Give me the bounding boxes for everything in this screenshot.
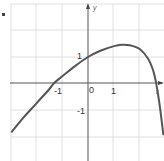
function-plot (0, 0, 164, 161)
x-tick-1: 1 (111, 87, 116, 96)
y-axis-label: y (93, 4, 97, 11)
y-tick-1: 1 (77, 52, 82, 61)
y-tick-neg1: -1 (77, 107, 85, 116)
x-axis-arrow (158, 81, 164, 85)
x-tick-neg1: -1 (54, 87, 62, 96)
function-curve (11, 45, 163, 135)
origin-label: 0 (89, 86, 94, 95)
x-axis-label: r (156, 88, 158, 95)
